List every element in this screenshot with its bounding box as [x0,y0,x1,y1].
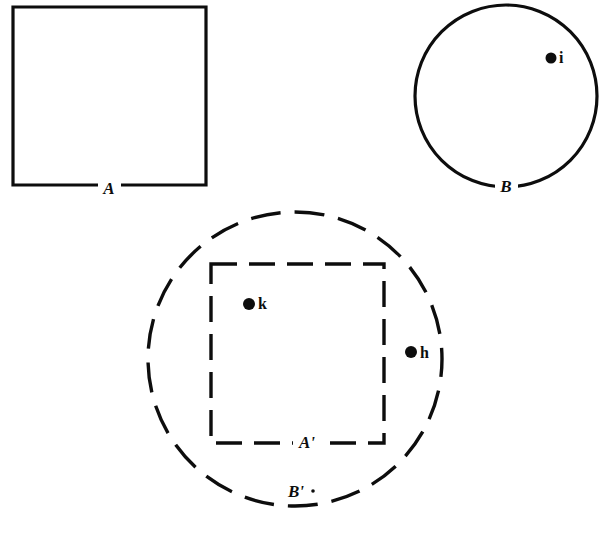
figure-diagram: A B i B' A' k [0,0,605,533]
shape-square-a: A [13,7,206,198]
square-a-prime-outline [211,264,384,443]
point-i-label: i [559,49,564,66]
circle-b-prime-outline [148,212,442,506]
point-k: k [243,295,267,312]
point-h: h [405,344,429,361]
square-a-outline [13,7,206,185]
circle-b-label: B [499,177,511,196]
square-a-prime-label: A' [298,433,315,452]
point-h-label: h [420,344,429,361]
shape-circle-b-prime: B' [148,212,442,506]
point-h-dot [405,346,417,358]
circle-b-outline [415,5,597,187]
figure-canvas: A B i B' A' k [0,0,605,533]
circle-b-prime-label-tick [311,489,315,493]
point-k-dot [243,298,255,310]
point-i-dot [546,53,557,64]
circle-b-prime-label: B' [287,482,304,501]
shape-square-a-prime: A' [211,264,384,452]
square-a-label: A [102,179,114,198]
shape-circle-b: B i [415,5,597,196]
point-k-label: k [258,295,267,312]
